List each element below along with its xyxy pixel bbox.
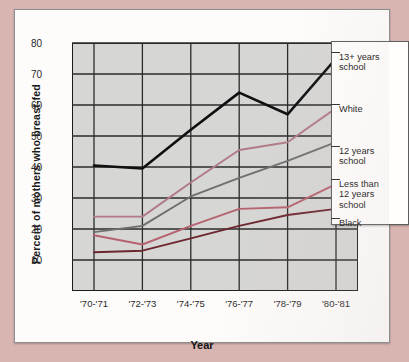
chart-card: Percent of mothers who breast-fed 102030… — [14, 9, 390, 343]
legend-label: school — [339, 62, 407, 72]
y-tick-label: 10 — [2, 255, 42, 266]
y-tick-label: 40 — [2, 162, 42, 173]
legend-item: Black — [339, 218, 407, 228]
y-tick-label: 60 — [2, 100, 42, 111]
y-tick-label: 50 — [2, 131, 42, 142]
y-tick-label: 20 — [2, 224, 42, 235]
legend-label: school — [339, 156, 407, 166]
y-tick-label: 30 — [2, 193, 42, 204]
legend-tick-icon — [331, 52, 340, 53]
chart-legend: 13+ yearsschoolWhite12 yearsschoolLess t… — [331, 41, 409, 225]
legend-tick-icon — [331, 218, 340, 219]
x-tick-label: '80-'81 — [301, 298, 371, 309]
legend-item: White — [339, 104, 407, 114]
plot-area — [72, 43, 358, 291]
legend-label: 12 years — [339, 189, 407, 199]
y-tick-label: 80 — [2, 38, 42, 49]
legend-label: school — [339, 200, 407, 210]
legend-tick-icon — [331, 104, 340, 105]
legend-tick-icon — [331, 146, 340, 147]
legend-label: Black — [339, 218, 407, 228]
legend-label: 12 years — [339, 146, 407, 156]
legend-label: Less than — [339, 179, 407, 189]
y-tick-label: 70 — [2, 69, 42, 80]
legend-label: White — [339, 104, 407, 114]
data-lines — [72, 43, 358, 291]
legend-item: 12 yearsschool — [339, 146, 407, 167]
legend-tick-icon — [331, 179, 340, 180]
legend-item: 13+ yearsschool — [339, 52, 407, 73]
legend-label: 13+ years — [339, 52, 407, 62]
x-axis-title: Year — [15, 339, 389, 351]
legend-item: Less than12 yearsschool — [339, 179, 407, 210]
